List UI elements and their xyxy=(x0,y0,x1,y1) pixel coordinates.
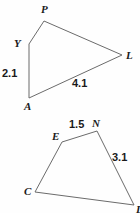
figure-outlines xyxy=(0,0,140,213)
side-length-label-en: 1.5 xyxy=(69,119,84,130)
side-length-label-nl: 3.1 xyxy=(112,152,127,163)
vertex-label-c: C xyxy=(24,186,31,197)
vertex-label-e: E xyxy=(52,131,59,142)
vertex-label-n: N xyxy=(92,118,100,129)
vertex-label-a: A xyxy=(24,101,31,112)
vertex-label-p: P xyxy=(41,4,48,15)
polygon-enlc xyxy=(35,131,134,205)
side-length-label-al: 4.1 xyxy=(72,78,87,89)
geometry-figure-canvas: P Y A L 2.1 4.1 E N L C 1.5 3.1 xyxy=(0,0,140,213)
vertex-label-l: L xyxy=(126,50,133,61)
vertex-label-l2: L xyxy=(136,204,140,213)
side-length-label-ya: 2.1 xyxy=(2,68,17,79)
vertex-label-y: Y xyxy=(14,38,21,49)
